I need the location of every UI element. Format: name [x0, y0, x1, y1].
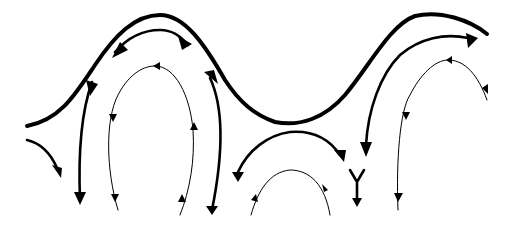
streamline-left-cell-inner: [109, 62, 198, 215]
flow-diagram: [0, 0, 513, 228]
streamline-stagnation-fork: [350, 170, 364, 207]
streamline-left-cell-outer-left: [74, 80, 98, 205]
streamline-trough-inner: [251, 170, 330, 215]
streamline-right-cell-inner: [394, 56, 488, 210]
wavy-surface: [27, 14, 487, 126]
streamline-left-outer-edge: [27, 140, 62, 178]
streamline-trough-upper: [232, 132, 346, 182]
streamline-left-crest-upper: [112, 30, 192, 58]
streamline-left-cell-outer-right: [204, 70, 220, 215]
